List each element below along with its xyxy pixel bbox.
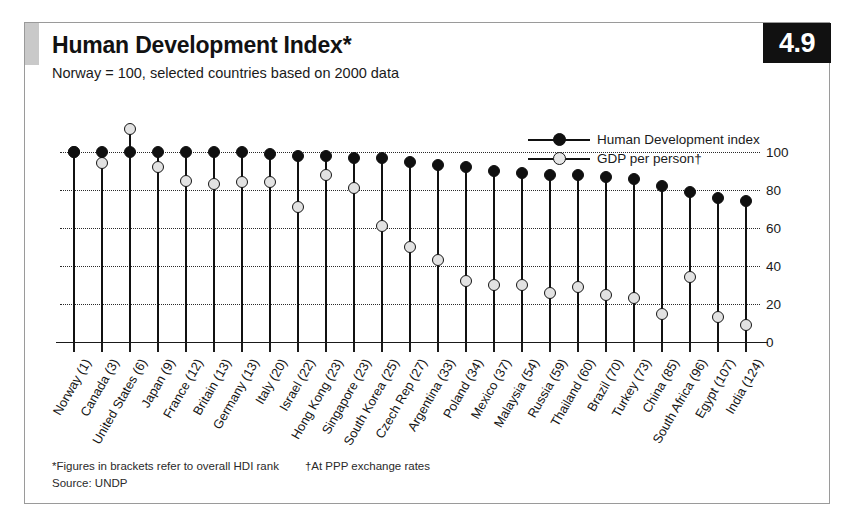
gdp-per-person-marker	[656, 308, 668, 320]
corner-accent-block	[25, 23, 39, 65]
x-axis-tickmark	[521, 342, 523, 352]
x-axis-tickmark	[129, 342, 131, 352]
hdi-marker	[320, 150, 332, 162]
column-stem	[521, 173, 523, 342]
x-axis-tickmark	[241, 342, 243, 352]
gdp-per-person-marker	[488, 279, 500, 291]
gdp-per-person-marker	[600, 289, 612, 301]
x-axis-tickmark	[269, 342, 271, 352]
page-subtitle: Norway = 100, selected countries based o…	[52, 65, 399, 81]
page-title: Human Development Index*	[52, 32, 351, 59]
hdi-marker	[68, 146, 80, 158]
legend-marker-filled-circle-icon	[528, 133, 590, 147]
gdp-per-person-marker	[376, 220, 388, 232]
gdp-per-person-marker	[124, 123, 136, 135]
x-axis-tickmark	[661, 342, 663, 352]
x-axis-tickmark	[717, 342, 719, 352]
gdp-per-person-marker	[740, 319, 752, 331]
column-stem	[605, 177, 607, 342]
footnote-source: Source: UNDP	[52, 475, 430, 492]
x-axis-tickmark	[549, 342, 551, 352]
gdp-per-person-marker	[292, 201, 304, 213]
hdi-marker	[432, 159, 444, 171]
column-stem	[493, 171, 495, 342]
x-axis-tickmark	[157, 342, 159, 352]
chart-number-badge: 4.9	[763, 23, 831, 63]
hdi-marker	[404, 156, 416, 168]
gdp-per-person-marker	[404, 241, 416, 253]
x-axis-tickmark	[325, 342, 327, 352]
gdp-per-person-marker	[684, 271, 696, 283]
hdi-marker	[712, 192, 724, 204]
hdi-marker	[488, 165, 500, 177]
gdp-per-person-marker	[712, 311, 724, 323]
x-axis-tickmark	[409, 342, 411, 352]
gdp-per-person-marker	[516, 279, 528, 291]
footnote-hdi-rank: *Figures in brackets refer to overall HD…	[52, 458, 279, 475]
hdi-marker	[124, 146, 136, 158]
x-axis-tickmark	[213, 342, 215, 352]
y-axis-tick-label: 100	[766, 145, 800, 160]
hdi-marker	[264, 148, 276, 160]
y-axis-tick-label: 60	[766, 221, 800, 236]
hdi-marker	[740, 195, 752, 207]
x-axis-tickmark	[101, 342, 103, 352]
hdi-marker	[544, 169, 556, 181]
gdp-per-person-marker	[152, 161, 164, 173]
column-stem	[325, 156, 327, 342]
x-axis-tickmark	[381, 342, 383, 352]
legend-label-hdi: Human Development index	[597, 132, 760, 147]
hdi-marker	[376, 152, 388, 164]
gdp-per-person-marker	[628, 292, 640, 304]
hdi-marker	[180, 146, 192, 158]
column-stem	[689, 192, 691, 342]
x-axis-tickmark	[297, 342, 299, 352]
x-axis-tickmark	[185, 342, 187, 352]
hdi-marker	[684, 186, 696, 198]
footnote-row: *Figures in brackets refer to overall HD…	[52, 458, 430, 475]
x-axis-tickmark	[633, 342, 635, 352]
x-axis-tickmark	[689, 342, 691, 352]
x-axis-tickmark	[605, 342, 607, 352]
gdp-per-person-marker	[208, 178, 220, 190]
hdi-marker	[460, 161, 472, 173]
column-stem	[73, 152, 75, 342]
legend-item-gdp: GDP per person†	[528, 149, 760, 168]
x-axis-tickmark	[745, 342, 747, 352]
hdi-marker	[96, 146, 108, 158]
hdi-marker	[152, 146, 164, 158]
legend-marker-open-circle-icon	[528, 152, 590, 166]
gdp-per-person-marker	[96, 157, 108, 169]
column-stem	[549, 175, 551, 342]
hdi-marker	[292, 150, 304, 162]
hdi-marker	[208, 146, 220, 158]
hdi-marker	[628, 173, 640, 185]
x-axis-tickmark	[493, 342, 495, 352]
hdi-marker	[600, 171, 612, 183]
y-axis-tick-label: 80	[766, 183, 800, 198]
column-stem	[297, 156, 299, 342]
gdp-per-person-marker	[180, 175, 192, 187]
legend-item-hdi: Human Development index	[528, 130, 760, 149]
column-stem	[129, 129, 131, 342]
x-axis-tickmark	[353, 342, 355, 352]
figure-page: 4.9 Human Development Index* Norway = 10…	[0, 0, 856, 532]
column-stem	[465, 167, 467, 342]
gdp-per-person-marker	[264, 176, 276, 188]
hdi-marker	[236, 146, 248, 158]
footnote-ppp: †At PPP exchange rates	[305, 458, 430, 475]
gdp-per-person-marker	[544, 287, 556, 299]
gdp-per-person-marker	[348, 182, 360, 194]
gdp-per-person-marker	[236, 176, 248, 188]
hdi-marker	[572, 169, 584, 181]
gdp-per-person-marker	[320, 169, 332, 181]
x-axis-tickmark	[437, 342, 439, 352]
hdi-marker	[516, 167, 528, 179]
y-axis-tick-label: 40	[766, 259, 800, 274]
legend-label-gdp: GDP per person†	[597, 151, 702, 166]
x-axis-tickmark	[577, 342, 579, 352]
column-stem	[381, 158, 383, 342]
column-stem	[157, 152, 159, 342]
column-stem	[101, 152, 103, 342]
footnotes: *Figures in brackets refer to overall HD…	[52, 458, 430, 491]
